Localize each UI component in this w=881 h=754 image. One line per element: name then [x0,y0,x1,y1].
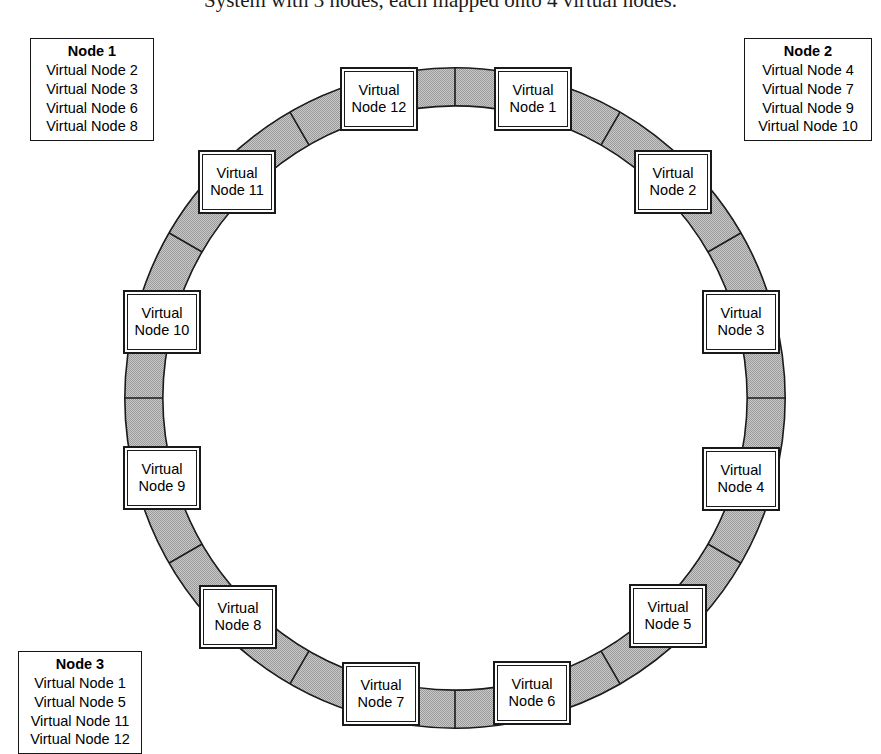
legend-node-3: Node 3 Virtual Node 1 Virtual Node 5 Vir… [18,651,142,754]
virtual-node-label-line2: Node 5 [645,616,692,633]
virtual-node-box-inner: VirtualNode 5 [633,588,703,644]
legend-item: Virtual Node 3 [38,80,146,99]
virtual-node-box-inner: VirtualNode 9 [127,450,197,506]
legend-item: Virtual Node 9 [752,99,864,118]
virtual-node-label-line1: Virtual [142,305,183,322]
legend-node-1: Node 1 Virtual Node 2 Virtual Node 3 Vir… [30,38,154,141]
legend-title: Node 2 [752,42,864,61]
virtual-node-box-inner: VirtualNode 12 [344,71,414,127]
legend-item: Virtual Node 10 [752,117,864,136]
virtual-node-label-line2: Node 4 [718,479,765,496]
virtual-node-box-inner: VirtualNode 2 [638,154,708,210]
virtual-node-label-line2: Node 9 [139,478,186,495]
virtual-node-12[interactable]: VirtualNode 12 [340,67,418,131]
virtual-node-7[interactable]: VirtualNode 7 [342,662,420,726]
virtual-node-label-line2: Node 1 [510,99,557,116]
virtual-node-label-line1: Virtual [217,165,258,182]
legend-item: Virtual Node 2 [38,61,146,80]
virtual-node-label-line1: Virtual [513,82,554,99]
virtual-node-3[interactable]: VirtualNode 3 [702,290,780,354]
legend-item: Virtual Node 12 [26,730,134,749]
virtual-node-4[interactable]: VirtualNode 4 [702,447,780,511]
virtual-node-label-line1: Virtual [512,676,553,693]
virtual-node-label-line1: Virtual [648,599,689,616]
legend-title: Node 1 [38,42,146,61]
virtual-node-label-line2: Node 8 [215,617,262,634]
virtual-node-box-inner: VirtualNode 7 [346,666,416,722]
virtual-node-label-line1: Virtual [218,600,259,617]
virtual-node-box-inner: VirtualNode 1 [498,71,568,127]
legend-node-2: Node 2 Virtual Node 4 Virtual Node 7 Vir… [744,38,872,141]
virtual-node-label-line2: Node 11 [210,182,264,199]
legend-item: Virtual Node 8 [38,117,146,136]
legend-item: Virtual Node 6 [38,99,146,118]
legend-title: Node 3 [26,655,134,674]
virtual-node-label-line2: Node 2 [650,182,697,199]
virtual-node-label-line2: Node 6 [509,693,556,710]
virtual-node-5[interactable]: VirtualNode 5 [629,584,707,648]
virtual-node-6[interactable]: VirtualNode 6 [493,661,571,725]
virtual-node-1[interactable]: VirtualNode 1 [494,67,572,131]
virtual-node-11[interactable]: VirtualNode 11 [198,150,276,214]
virtual-node-label-line1: Virtual [142,461,183,478]
legend-item: Virtual Node 4 [752,61,864,80]
virtual-node-box-inner: VirtualNode 3 [706,294,776,350]
virtual-node-9[interactable]: VirtualNode 9 [123,446,201,510]
virtual-node-label-line1: Virtual [653,165,694,182]
virtual-node-label-line1: Virtual [721,462,762,479]
virtual-node-box-inner: VirtualNode 10 [127,294,197,350]
legend-item: Virtual Node 11 [26,712,134,731]
virtual-node-box-inner: VirtualNode 8 [203,589,273,645]
virtual-node-box-inner: VirtualNode 6 [497,665,567,721]
virtual-node-box-inner: VirtualNode 11 [202,154,272,210]
virtual-node-label-line2: Node 7 [358,694,405,711]
legend-item: Virtual Node 7 [752,80,864,99]
virtual-node-box-inner: VirtualNode 4 [706,451,776,507]
legend-item: Virtual Node 1 [26,674,134,693]
virtual-node-label-line1: Virtual [361,677,402,694]
virtual-node-8[interactable]: VirtualNode 8 [199,585,277,649]
virtual-node-label-line2: Node 12 [352,99,407,116]
virtual-node-label-line2: Node 10 [135,322,190,339]
virtual-node-label-line1: Virtual [359,82,400,99]
virtual-node-label-line2: Node 3 [718,322,765,339]
legend-item: Virtual Node 5 [26,693,134,712]
virtual-node-2[interactable]: VirtualNode 2 [634,150,712,214]
virtual-node-10[interactable]: VirtualNode 10 [123,290,201,354]
virtual-node-label-line1: Virtual [721,305,762,322]
